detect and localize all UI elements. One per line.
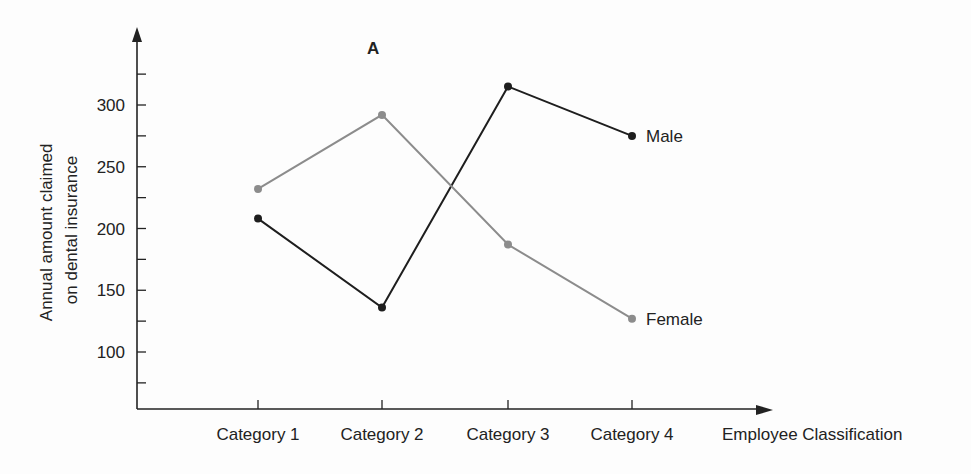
data-point <box>504 82 512 90</box>
x-tick-label: Category 4 <box>590 425 673 444</box>
series-lines: MaleFemale <box>254 82 703 328</box>
x-tick-label: Category 2 <box>340 425 423 444</box>
series-label: Female <box>646 310 703 329</box>
line-chart: 100150200250300 Category 1Category 2Cate… <box>0 0 971 474</box>
data-point <box>504 241 512 249</box>
data-point <box>254 215 262 223</box>
series-female: Female <box>254 111 703 329</box>
y-axis-label-line-1: Annual amount claimed <box>37 144 56 322</box>
axes <box>132 27 773 415</box>
y-tick-label: 200 <box>97 220 125 239</box>
x-ticks: Category 1Category 2Category 3Category 4 <box>216 400 673 444</box>
series-male: Male <box>254 82 683 311</box>
series-label: Male <box>646 127 683 146</box>
y-tick-label: 250 <box>97 158 125 177</box>
data-point <box>628 315 636 323</box>
data-point <box>378 111 386 119</box>
data-point <box>378 304 386 312</box>
y-axis-label-line-2: on dental insurance <box>62 156 81 304</box>
data-point <box>628 132 636 140</box>
y-axis-arrow-icon <box>132 27 142 42</box>
x-axis-label: Employee Classification <box>722 425 902 444</box>
series-line <box>258 86 632 307</box>
y-axis-label: Annual amount claimed on dental insuranc… <box>37 139 81 321</box>
y-tick-label: 300 <box>97 96 125 115</box>
y-ticks: 100150200250300 <box>97 74 146 383</box>
data-point <box>254 185 262 193</box>
x-tick-label: Category 3 <box>466 425 549 444</box>
y-tick-label: 150 <box>97 281 125 300</box>
series-line <box>258 115 632 319</box>
x-axis-arrow-icon <box>756 405 773 415</box>
y-tick-label: 100 <box>97 343 125 362</box>
chart-title: A <box>367 39 379 58</box>
x-tick-label: Category 1 <box>216 425 299 444</box>
